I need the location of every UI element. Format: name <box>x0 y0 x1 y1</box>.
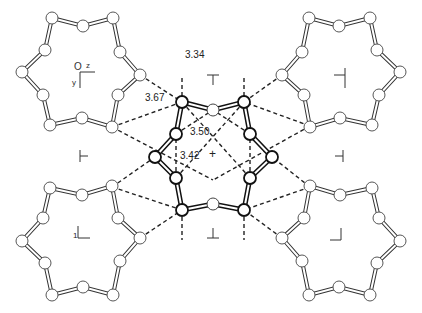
distance-label-3-34: 3.34 <box>185 50 204 60</box>
bottom-left-ring-number: 1 <box>73 232 77 240</box>
axis-z-label: z <box>86 62 90 70</box>
axis-origin-label: O <box>74 62 82 72</box>
distance-label-3-42: 3.42 <box>180 151 199 161</box>
center-symmetry-plus: + <box>209 148 216 160</box>
ring-bottom-left <box>16 180 146 301</box>
ring-top-right <box>276 12 406 133</box>
axis-y-label: y <box>72 79 76 87</box>
distance-label-3-50: 3.50 <box>190 127 209 137</box>
distance-label-3-67: 3.67 <box>145 93 164 103</box>
